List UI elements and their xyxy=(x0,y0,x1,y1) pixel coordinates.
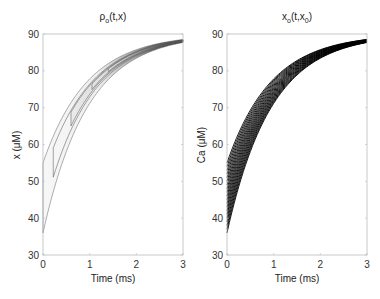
y-tick-label: 50 xyxy=(28,176,40,187)
x-tick-label: 2 xyxy=(318,259,324,270)
x-tick-label: 1 xyxy=(87,259,93,270)
left-x-axis-label: Time (ms) xyxy=(91,273,136,284)
x-tick-label: 3 xyxy=(180,259,186,270)
y-tick-label: 70 xyxy=(28,102,40,113)
y-tick-label: 70 xyxy=(212,102,224,113)
y-tick-label: 90 xyxy=(212,29,224,40)
trajectory-lines xyxy=(227,39,367,232)
x-tick-label: 0 xyxy=(224,259,230,270)
density-band xyxy=(43,39,183,232)
y-tick-label: 60 xyxy=(28,139,40,150)
x-tick-label: 3 xyxy=(364,259,370,270)
figure: ρo(t,x) 30405060708090 0123 Time (ms) x … xyxy=(0,0,380,299)
y-tick-label: 30 xyxy=(212,250,224,261)
right-plot-title: xo(t,x0) xyxy=(282,11,312,24)
right-x-ticks: 0123 xyxy=(224,253,370,270)
y-tick-label: 60 xyxy=(212,139,224,150)
y-tick-label: 90 xyxy=(28,29,40,40)
right-x-axis-label: Time (ms) xyxy=(275,273,320,284)
x-tick-label: 1 xyxy=(271,259,277,270)
y-tick-label: 40 xyxy=(28,213,40,224)
right-y-axis-label: Ca (μM) xyxy=(196,127,207,163)
y-tick-label: 80 xyxy=(28,65,40,76)
y-tick-label: 50 xyxy=(212,176,224,187)
left-x-ticks: 0123 xyxy=(40,253,186,270)
left-plot-title: ρo(t,x) xyxy=(100,11,127,24)
x-tick-label: 2 xyxy=(134,259,140,270)
left-y-axis-label: x (μM) xyxy=(11,131,22,160)
y-tick-label: 40 xyxy=(212,213,224,224)
x-tick-label: 0 xyxy=(40,259,46,270)
trajectory-plot: xo(t,x0) 30405060708090 0123 Time (ms) C… xyxy=(196,11,370,284)
y-tick-label: 80 xyxy=(212,65,224,76)
y-tick-label: 30 xyxy=(28,250,40,261)
density-plot: ρo(t,x) 30405060708090 0123 Time (ms) x … xyxy=(11,11,186,284)
